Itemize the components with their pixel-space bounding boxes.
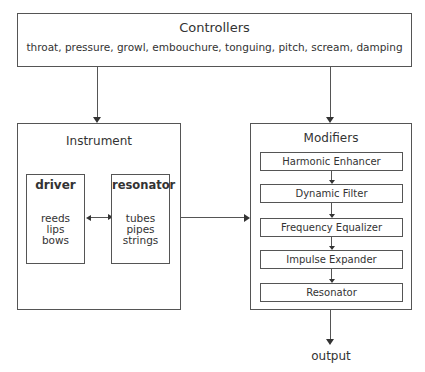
modifiers-box: Modifiers Harmonic Enhancer Dynamic Filt… bbox=[250, 123, 412, 310]
resonator-item: strings bbox=[112, 235, 169, 246]
modifier-stage: Dynamic Filter bbox=[260, 184, 403, 203]
modifier-stage: Impulse Expander bbox=[260, 250, 403, 269]
controllers-box: Controllers throat, pressure, growl, emb… bbox=[17, 13, 412, 67]
driver-items: reeds lips bows bbox=[27, 213, 84, 246]
modifiers-to-output-line bbox=[330, 310, 331, 340]
modifier-stage: Frequency Equalizer bbox=[260, 218, 403, 237]
driver-title: driver bbox=[27, 178, 84, 192]
instrument-title: Instrument bbox=[18, 134, 180, 148]
output-label: output bbox=[300, 349, 362, 363]
modifiers-title: Modifiers bbox=[251, 131, 411, 145]
controllers-to-instrument-line bbox=[97, 67, 98, 118]
modifier-stage: Resonator bbox=[260, 283, 403, 302]
driver-item: bows bbox=[27, 235, 84, 246]
instrument-box: Instrument driver reeds lips bows resona… bbox=[17, 123, 181, 310]
controllers-items: throat, pressure, growl, embouchure, ton… bbox=[18, 41, 411, 53]
controllers-title: Controllers bbox=[18, 20, 411, 35]
arrow-down-icon bbox=[326, 339, 334, 345]
arrow-left-icon bbox=[86, 215, 91, 221]
driver-box: driver reeds lips bows bbox=[26, 174, 85, 264]
resonator-items: tubes pipes strings bbox=[112, 213, 169, 246]
modifier-stage: Harmonic Enhancer bbox=[260, 152, 403, 171]
resonator-title: resonator bbox=[112, 178, 169, 192]
controllers-to-modifiers-line bbox=[330, 67, 331, 118]
instrument-to-modifiers-line bbox=[181, 217, 245, 218]
resonator-box: resonator tubes pipes strings bbox=[111, 174, 170, 264]
